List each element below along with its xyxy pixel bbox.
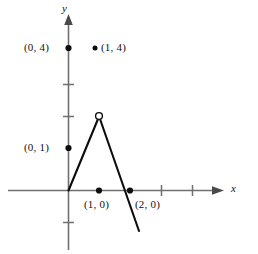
y-axis-arrowhead [64,14,73,25]
filled-point-0-1 [65,145,71,151]
x-axis-label: x [231,182,236,194]
curve-falling-segment [100,119,139,231]
label-point-1-4: (1, 4) [101,41,126,53]
filled-point-0-4 [65,45,71,51]
coordinate-plane [0,0,258,254]
y-axis-label: y [62,2,67,14]
filled-point-2-0 [127,187,133,193]
label-point-0-1: (0, 1) [24,141,49,153]
graph-figure: y x (0, 4) (1, 4) (0, 1) (1, 0) (2, 0) [0,0,258,254]
filled-point-1-4 [93,46,98,51]
curve-rising-segment [69,119,99,191]
label-point-1-0: (1, 0) [84,198,109,210]
x-axis-arrowhead [212,186,224,195]
label-point-0-4: (0, 4) [24,41,49,53]
filled-point-1-0 [96,187,102,193]
label-point-2-0: (2, 0) [135,198,160,210]
open-point-apex [96,113,103,120]
